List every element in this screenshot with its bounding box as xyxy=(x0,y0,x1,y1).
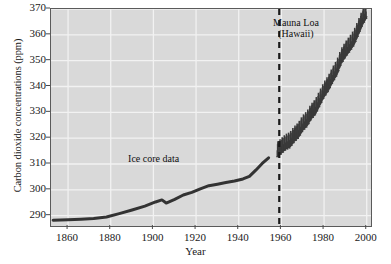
y-tick-label-320: 320 xyxy=(2,131,46,142)
series-ice-core-data xyxy=(53,158,268,221)
plot-area xyxy=(50,8,372,227)
y-tick-label-330: 330 xyxy=(2,105,46,116)
co2-chart-figure: Carbon dioxide concentrations (ppm) 2903… xyxy=(0,0,391,264)
x-axis-title: Year xyxy=(0,245,391,257)
y-tick-label-310: 310 xyxy=(2,157,46,168)
x-tick-label-2000: 2000 xyxy=(336,231,391,243)
mauna-loa-label-line1: Mauna Loa xyxy=(273,17,319,29)
mauna-loa-label-line2: (Hawaii) xyxy=(273,28,319,40)
y-tick-label-370: 370 xyxy=(2,2,46,13)
y-tick-label-290: 290 xyxy=(2,209,46,220)
y-tick-label-350: 350 xyxy=(2,54,46,65)
gridlines xyxy=(51,9,371,226)
y-tick-label-360: 360 xyxy=(2,28,46,39)
plot-canvas xyxy=(51,9,371,226)
mauna-loa-annotation: Mauna Loa(Hawaii) xyxy=(273,17,319,40)
y-tick-label-300: 300 xyxy=(2,183,46,194)
ice-core-annotation: Ice core data xyxy=(128,153,179,165)
y-tick-label-340: 340 xyxy=(2,80,46,91)
